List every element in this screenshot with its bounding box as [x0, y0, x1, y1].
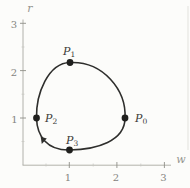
- point-label-P3: P3: [65, 134, 78, 148]
- x-axis-label: w: [176, 153, 186, 166]
- phase-portrait-figure: 3 2 1 1 2 3 r w P0 P1 P2 P3: [0, 0, 190, 188]
- y-tick-label-2: 2: [11, 67, 17, 78]
- point-label-P1-subscript: 1: [70, 50, 75, 59]
- point-marker-P2: [33, 115, 40, 122]
- x-tick-label-2: 2: [113, 172, 119, 183]
- point-marker-P0: [122, 115, 129, 122]
- point-label-P2-subscript: 2: [52, 117, 57, 126]
- x-tick-label-1: 1: [65, 172, 71, 183]
- point-label-P3-subscript: 3: [73, 139, 78, 148]
- point-label-P2: P2: [44, 112, 57, 126]
- limit-cycle-curve: [36, 62, 125, 150]
- point-marker-P3: [66, 147, 73, 154]
- point-label-P0: P0: [134, 112, 147, 126]
- y-tick-label-3: 3: [11, 19, 17, 30]
- point-label-P0-subscript: 0: [142, 117, 147, 126]
- y-axis-label: r: [27, 2, 33, 15]
- x-tick-label-3: 3: [160, 172, 166, 183]
- point-marker-P1: [67, 59, 74, 66]
- y-tick-label-1: 1: [11, 114, 17, 125]
- point-label-P1: P1: [62, 45, 75, 59]
- phase-portrait-canvas: 3 2 1 1 2 3 r w P0 P1 P2 P3: [0, 0, 190, 188]
